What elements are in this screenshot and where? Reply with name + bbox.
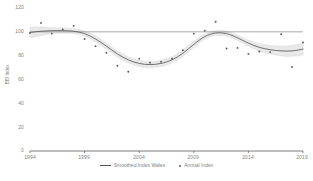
data-point [215,21,217,23]
data-point [160,61,162,63]
data-point [138,58,140,60]
data-point [73,25,75,27]
data-point [291,66,293,68]
x-tick-2009: 2009 [181,155,205,160]
data-point [171,58,173,60]
x-tick-1999: 1999 [72,155,96,160]
y-axis-title: BBI Index [6,52,11,96]
data-point [280,33,282,35]
chart-container: 120 100 80 60 40 20 0 1994 1999 2004 200… [0,0,313,181]
y-tick-0: 0 [8,148,24,153]
data-point [116,65,118,67]
data-point [204,30,206,32]
x-tick-2014: 2014 [236,155,260,160]
y-tick-80: 80 [8,53,24,58]
data-point [193,33,195,35]
data-point [258,51,260,53]
data-point [149,62,151,64]
data-point [237,47,239,49]
legend-item-smoothed-index-wales: Smoothed Index Wales [100,163,166,168]
data-point [226,48,228,50]
data-point [247,53,249,55]
data-point [62,29,64,31]
data-point [95,45,97,47]
x-tick-2004: 2004 [127,155,151,160]
confidence-band [30,27,303,68]
x-tick-1994: 1994 [18,155,42,160]
data-point [51,33,53,35]
data-point [40,22,42,24]
data-point [84,38,86,40]
y-tick-60: 60 [8,77,24,82]
y-tick-120: 120 [8,5,24,10]
y-tick-100: 100 [8,29,24,34]
x-tick-2019: 2019 [290,155,313,160]
data-point [269,51,271,53]
data-point [182,49,184,51]
data-point [105,52,107,54]
data-point [127,71,129,73]
chart-legend: Smoothed Index Wales Annual Index [0,163,313,168]
chart-plot-area [0,0,313,181]
data-point [302,42,304,44]
y-tick-40: 40 [8,101,24,106]
y-tick-20: 20 [8,125,24,130]
legend-label-annual: Annual Index [184,163,213,168]
legend-dot-icon [179,165,181,167]
legend-label-smoothed: Smoothed Index Wales [114,163,166,168]
legend-item-annual-index: Annual Index [179,163,213,168]
legend-line-icon [100,165,111,166]
data-point [29,32,31,34]
